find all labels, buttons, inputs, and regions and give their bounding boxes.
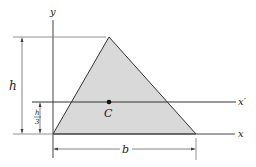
x-axis-label: x <box>238 128 244 139</box>
triangle <box>53 37 196 134</box>
h-arrow-bottom-icon <box>21 129 24 134</box>
height-third-numerator: h <box>35 109 40 117</box>
h-arrow-top-icon <box>21 37 24 42</box>
height-label: h <box>9 79 17 93</box>
b-arrow-right-icon <box>191 148 196 151</box>
y-axis-label: y <box>49 6 56 17</box>
h3-arrow-bottom-icon <box>39 129 42 134</box>
base-label: b <box>122 143 129 156</box>
triangle-centroid-diagram: y x x′ C h h 3 b <box>0 0 256 167</box>
h3-arrow-top-icon <box>39 102 42 107</box>
b-arrow-left-icon <box>53 148 58 151</box>
x-prime-label: x′ <box>238 96 247 107</box>
height-third-denominator: 3 <box>35 118 40 126</box>
centroid-label: C <box>104 107 113 120</box>
centroid-point <box>107 100 112 105</box>
